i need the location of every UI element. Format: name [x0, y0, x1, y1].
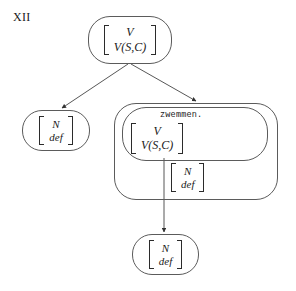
avm-rows: N def: [44, 116, 67, 145]
mother-node: V V(S,C): [88, 16, 172, 64]
avm-rows: V V(S,C): [109, 25, 151, 56]
avm-row-2: V(S,C): [114, 40, 146, 54]
avm-rows: N def: [154, 240, 177, 269]
avm-row-1: V: [153, 124, 160, 138]
avm-row-1: V: [126, 26, 133, 40]
avm-row-2: def: [181, 177, 194, 190]
bracket-right: [178, 123, 183, 154]
figure-label: XII: [13, 10, 31, 25]
feature-structure-diagram: XII V V(S,C) N def: [0, 0, 296, 291]
avm-row-2: def: [159, 255, 172, 268]
lexical-verb-avm: V V(S,C): [131, 123, 183, 154]
left-daughter-node: N def: [22, 110, 90, 151]
bracket-right: [68, 116, 73, 145]
bracket-right: [177, 240, 182, 269]
bottom-avm: N def: [149, 240, 182, 269]
avm-row-1: N: [162, 241, 169, 254]
avm-row-1: N: [184, 164, 191, 177]
lexical-item-label: zwemmen.: [160, 110, 202, 120]
avm-row-2: def: [49, 131, 62, 144]
edge-top-to-left: [62, 64, 128, 108]
avm-row-1: N: [52, 117, 59, 130]
left-daughter-avm: N def: [39, 116, 72, 145]
bottom-node: N def: [132, 234, 199, 275]
object-avm: N def: [171, 163, 204, 192]
avm-row-2: V(S,C): [141, 138, 173, 152]
avm-rows: N def: [176, 163, 199, 192]
avm-rows: V V(S,C): [136, 123, 178, 154]
bracket-right: [151, 25, 156, 56]
mother-avm: V V(S,C): [104, 25, 156, 56]
edge-top-to-box: [131, 64, 196, 101]
bracket-right: [199, 163, 204, 192]
